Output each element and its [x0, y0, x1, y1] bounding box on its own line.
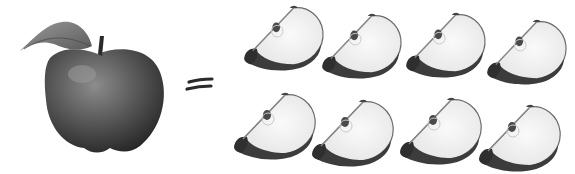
apple-slice-icon — [487, 20, 566, 85]
apple-slice-icon — [322, 14, 401, 79]
apple-slice-icon — [406, 13, 485, 78]
slices-row-bottom — [234, 93, 560, 172]
equals-icon — [187, 79, 212, 89]
apple-slice-icon — [244, 6, 323, 71]
apple-equals-slices-illustration: One whole apple equals eight apple slice… — [0, 0, 575, 174]
apple-slice-icon — [400, 98, 481, 165]
apple-slice-icon — [312, 100, 393, 167]
apple-icon — [20, 22, 164, 153]
apple-slice-icon — [234, 93, 315, 160]
apple-slice-icon — [479, 105, 560, 172]
slices-row-top — [244, 6, 566, 85]
